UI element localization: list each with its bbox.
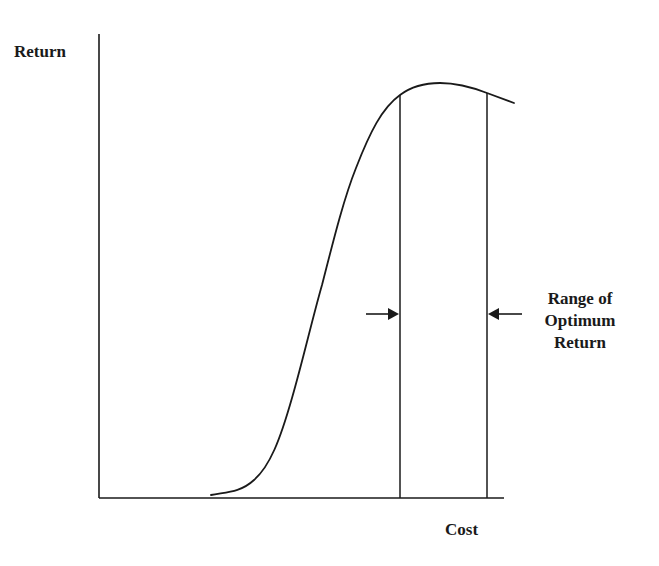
arrow-left-icon	[488, 308, 522, 320]
optimum-range-label-line2: Optimum	[520, 310, 640, 332]
optimum-range-label-line3: Return	[520, 332, 640, 354]
return-curve	[211, 83, 514, 495]
arrow-right-icon	[366, 308, 399, 320]
cost-return-diagram	[0, 0, 659, 566]
optimum-range-label: Range of Optimum Return	[520, 288, 640, 354]
optimum-range-label-line1: Range of	[520, 288, 640, 310]
x-axis-label: Cost	[445, 519, 478, 541]
y-axis-label: Return	[14, 41, 66, 63]
